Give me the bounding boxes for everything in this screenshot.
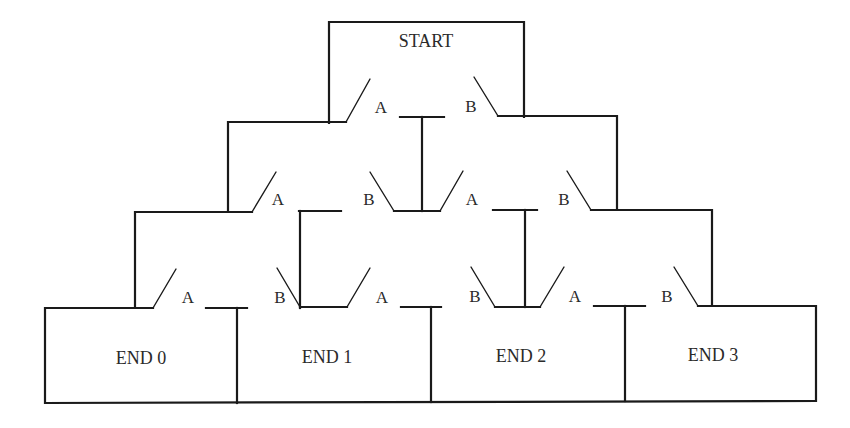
end-label-0: END 0 (116, 348, 167, 368)
switch-label-row3-b2: B (469, 287, 480, 306)
switch-label-row3-b3: B (661, 287, 672, 306)
switch-row3-a2 (347, 268, 370, 307)
start-node: START (329, 22, 524, 123)
end-label-1: END 1 (302, 347, 353, 367)
switch-label-row3-b1: B (274, 288, 285, 307)
end-label-2: END 2 (496, 346, 547, 366)
end-label-3: END 3 (688, 345, 739, 365)
switch-row3-a3 (540, 267, 564, 307)
row2-switches: A B A B (135, 171, 712, 308)
switch-row2-a2 (440, 171, 463, 211)
switch-row3-b3 (674, 267, 698, 306)
row2-right-wire (591, 210, 712, 306)
switch-label-row2-a1: A (272, 190, 285, 209)
switch-tree-diagram: START A B A B A (0, 0, 850, 428)
switch-row2-b2 (567, 171, 591, 210)
diagram-svg: START A B A B A (0, 0, 850, 428)
switch-row1-b (474, 77, 498, 116)
start-label: START (399, 31, 453, 51)
switch-label-row3-a2: A (376, 288, 389, 307)
switch-label-row1-b: B (465, 97, 476, 116)
switch-label-row2-b1: B (363, 190, 374, 209)
row1-left-wire (228, 122, 346, 212)
switch-row3-a1 (153, 269, 176, 308)
switch-label-row1-a: A (375, 98, 388, 117)
row3-switches: A B A B A B (153, 267, 698, 308)
switch-row1-a (346, 79, 370, 122)
switch-label-row3-a3: A (569, 287, 582, 306)
switch-label-row2-b2: B (558, 190, 569, 209)
end-nodes: END 0 END 1 END 2 END 3 (45, 306, 816, 403)
switch-label-row2-a2: A (466, 190, 479, 209)
switch-label-row3-a1: A (182, 288, 195, 307)
